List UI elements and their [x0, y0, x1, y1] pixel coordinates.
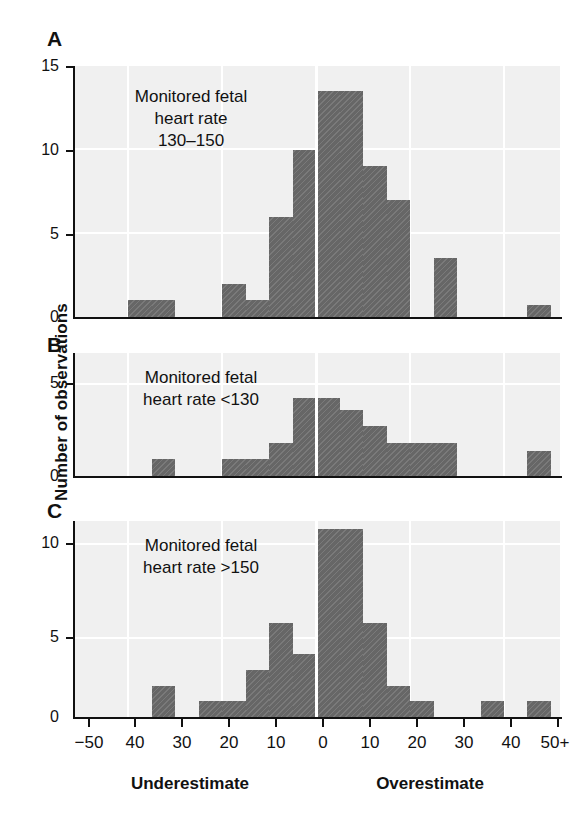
bar [363, 426, 387, 476]
bar [340, 410, 364, 476]
bar [152, 459, 176, 476]
bar [316, 398, 340, 476]
panel-c-letter: C [47, 500, 62, 521]
bar [246, 459, 270, 476]
panel-b-annotation: Monitored fetal heart rate <130 [91, 367, 311, 411]
bar [340, 529, 364, 717]
y-tick-label: 5 [23, 629, 59, 645]
bar [222, 459, 246, 476]
bar [527, 701, 551, 717]
x-axis-overestimate-label: Overestimate [330, 775, 530, 792]
bar [269, 443, 293, 476]
y-tick-label: 0 [23, 468, 59, 484]
y-tick-label: 10 [23, 535, 59, 551]
bar [527, 451, 551, 476]
x-tick [88, 719, 90, 727]
panel-c-x-axis [73, 717, 562, 719]
panel-a-y-axis [73, 66, 75, 319]
x-tick [369, 719, 371, 727]
x-tick-label: 50+ [525, 734, 572, 751]
y-tick-label: 0 [23, 309, 59, 325]
panel-b-letter: B [47, 334, 62, 355]
y-tick [66, 637, 73, 639]
x-tick [510, 719, 512, 727]
bar [222, 701, 246, 717]
y-tick [66, 66, 73, 68]
y-tick-label: 5 [23, 226, 59, 242]
y-tick [66, 234, 73, 236]
bar [269, 217, 293, 317]
x-tick [275, 719, 277, 727]
y-tick [66, 383, 73, 385]
bar [340, 91, 364, 317]
panel-a-letter: A [47, 28, 62, 49]
x-tick [181, 719, 183, 727]
bar [410, 443, 434, 476]
gridline-x-40 [503, 66, 505, 317]
panel-a-annotation-line2: heart rate [91, 108, 291, 130]
bar [387, 686, 411, 717]
bar [199, 701, 223, 717]
panel-a-plot-area: 15 10 5 0 Monitored fetal heart rate 130… [75, 66, 560, 317]
bar [387, 443, 411, 476]
panel-c-annotation-line2: heart rate >150 [91, 557, 311, 579]
bar [293, 150, 317, 317]
bar [316, 529, 340, 717]
bar [434, 258, 458, 317]
bar [434, 443, 458, 476]
x-axis-underestimate-label: Underestimate [90, 775, 290, 792]
bar [246, 670, 270, 717]
panel-a-annotation-line1: Monitored fetal [91, 86, 291, 108]
panel-c-y-axis [73, 521, 75, 719]
gridline-x-40 [503, 521, 505, 717]
bar [363, 166, 387, 317]
panel-b-annotation-line2: heart rate <130 [91, 389, 311, 411]
zero-reference-line [315, 353, 318, 476]
x-tick [463, 719, 465, 727]
histogram-figure: Number of observations A [0, 0, 572, 820]
panel-b-x-axis [73, 476, 562, 478]
x-tick [416, 719, 418, 727]
bar [246, 300, 270, 317]
bar [293, 654, 317, 717]
zero-reference-line [315, 521, 318, 717]
bar [410, 701, 434, 717]
x-tick [228, 719, 230, 727]
bar [363, 623, 387, 717]
y-tick-label: 5 [23, 375, 59, 391]
zero-reference-line [315, 66, 318, 317]
y-tick [66, 150, 73, 152]
bar [128, 300, 152, 317]
bar [481, 701, 505, 717]
panel-c-annotation-line1: Monitored fetal [91, 535, 311, 557]
bar [527, 305, 551, 317]
y-tick [66, 543, 73, 545]
x-tick [322, 719, 324, 727]
panel-a-annotation-line3: 130–150 [91, 130, 291, 152]
x-tick [557, 719, 559, 727]
bar [222, 284, 246, 318]
y-tick-label: 10 [23, 142, 59, 158]
bar [152, 300, 176, 317]
bar [387, 200, 411, 317]
panel-b-y-axis [73, 353, 75, 478]
panel-a-annotation: Monitored fetal heart rate 130–150 [91, 86, 291, 152]
bar [152, 686, 176, 717]
panel-c-plot-area: 10 5 0 Monitored fetal heart rate >150 [75, 521, 560, 717]
bar [269, 623, 293, 717]
panel-b-annotation-line1: Monitored fetal [91, 367, 311, 389]
x-tick [134, 719, 136, 727]
y-tick-label: 0 [23, 709, 59, 725]
panel-c-annotation: Monitored fetal heart rate >150 [91, 535, 311, 579]
panel-a-x-axis [73, 317, 562, 319]
panel-b-plot-area: 5 0 Monitored fetal heart rate <130 [75, 353, 560, 476]
bar [316, 91, 340, 317]
y-tick-label: 15 [23, 58, 59, 74]
gridline-x-40 [503, 353, 505, 476]
